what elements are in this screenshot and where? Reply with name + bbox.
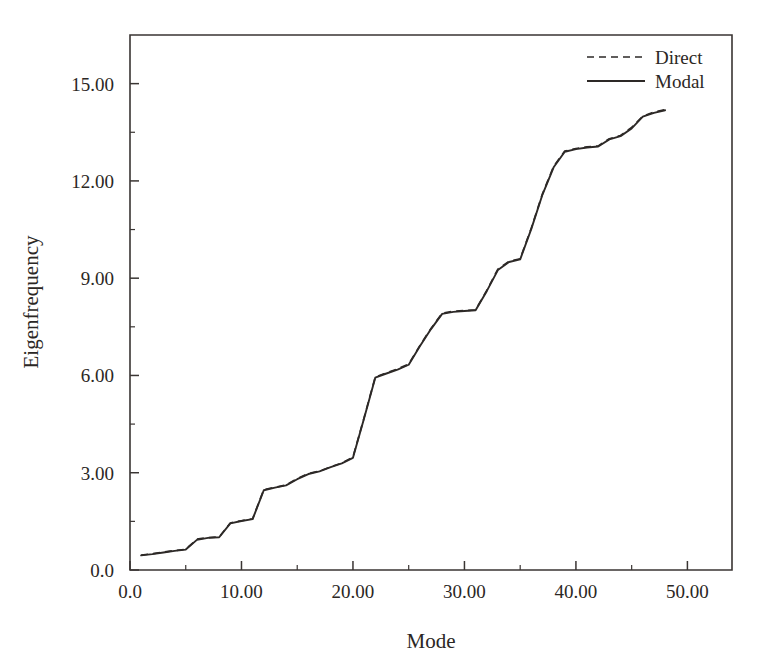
plot-frame xyxy=(130,35,732,570)
y-tick-label: 6.00 xyxy=(81,365,114,386)
y-tick-label: 9.00 xyxy=(81,268,114,289)
y-tick-label: 0.0 xyxy=(90,560,114,581)
legend-label-direct: Direct xyxy=(655,47,703,68)
x-tick-label: 40.00 xyxy=(555,581,598,602)
y-tick-label: 15.00 xyxy=(71,74,114,95)
legend-label-modal: Modal xyxy=(655,71,705,92)
y-tick-label: 3.00 xyxy=(81,463,114,484)
x-tick-label: 0.0 xyxy=(118,581,142,602)
plot-border xyxy=(130,35,732,570)
x-axis-title: Mode xyxy=(407,629,456,653)
x-tick-label: 10.00 xyxy=(220,581,263,602)
x-axis-tick-labels: 0.010.0020.0030.0040.0050.00 xyxy=(118,581,709,602)
x-tick-label: 50.00 xyxy=(666,581,709,602)
chart-figure: 0.010.0020.0030.0040.0050.00 0.03.006.00… xyxy=(0,0,773,655)
y-axis-tick-labels: 0.03.006.009.0012.0015.00 xyxy=(71,74,114,581)
data-series-group xyxy=(141,110,665,556)
y-tick-label: 12.00 xyxy=(71,171,114,192)
y-axis-ticks xyxy=(130,84,139,570)
chart-legend: DirectModal xyxy=(587,47,705,92)
series-line-direct xyxy=(141,110,665,556)
chart-canvas: 0.010.0020.0030.0040.0050.00 0.03.006.00… xyxy=(0,0,773,655)
series-line-modal xyxy=(141,110,665,555)
x-tick-label: 30.00 xyxy=(443,581,486,602)
x-axis-ticks xyxy=(130,561,687,570)
y-axis-title: Eigenfrequency xyxy=(19,235,43,368)
x-tick-label: 20.00 xyxy=(332,581,375,602)
